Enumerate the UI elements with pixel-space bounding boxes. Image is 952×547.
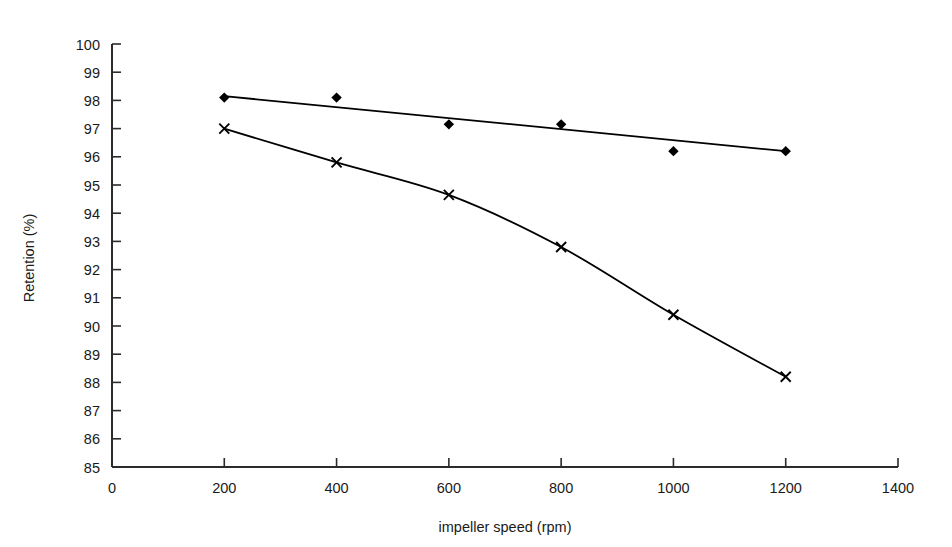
data-point-cross <box>556 242 566 252</box>
x-tick-label: 400 <box>324 480 348 496</box>
x-tick-label: 200 <box>212 480 236 496</box>
y-tick-label: 95 <box>84 178 100 194</box>
y-tick-label: 97 <box>84 121 100 137</box>
x-tick-label: 1000 <box>657 480 689 496</box>
y-tick-label: 92 <box>84 262 100 278</box>
chart-plot-area: 858687888990919293949596979899100 020040… <box>0 0 952 547</box>
data-point-cross <box>332 157 342 167</box>
data-point-diamond <box>668 146 678 156</box>
y-tick-label: 91 <box>84 290 100 306</box>
y-tick-label: 100 <box>76 37 100 53</box>
x-tick-label: 800 <box>549 480 573 496</box>
data-point-cross <box>219 124 229 134</box>
y-axis-title: Retention (%) <box>21 214 37 303</box>
y-axis: 858687888990919293949596979899100 <box>76 37 121 476</box>
y-tick-label: 96 <box>84 149 100 165</box>
data-point-diamond <box>331 92 341 102</box>
x-tick-label: 600 <box>437 480 461 496</box>
y-tick-label: 86 <box>84 431 100 447</box>
data-point-cross <box>444 190 454 200</box>
y-tick-label: 87 <box>84 403 100 419</box>
curve-line-series-cross <box>224 129 785 377</box>
x-axis-title: impeller speed (rpm) <box>439 519 572 535</box>
data-point-diamond <box>781 146 791 156</box>
y-tick-label: 99 <box>84 65 100 81</box>
x-tick-label: 1400 <box>882 480 914 496</box>
y-tick-label: 89 <box>84 347 100 363</box>
data-series-group <box>219 92 791 381</box>
data-point-cross <box>781 372 791 382</box>
y-tick-label: 90 <box>84 319 100 335</box>
trend-line-series-diamond <box>224 96 785 151</box>
data-point-cross <box>668 310 678 320</box>
chart-figure: 858687888990919293949596979899100 020040… <box>0 0 952 547</box>
x-axis: 0200400600800100012001400 <box>108 458 914 496</box>
y-tick-label: 93 <box>84 234 100 250</box>
data-point-diamond <box>219 92 229 102</box>
x-tick-label: 1200 <box>770 480 802 496</box>
y-tick-label: 88 <box>84 375 100 391</box>
y-tick-label: 85 <box>84 460 100 476</box>
y-tick-label: 98 <box>84 93 100 109</box>
x-tick-label: 0 <box>108 480 116 496</box>
data-point-diamond <box>444 119 454 129</box>
y-tick-label: 94 <box>84 206 100 222</box>
